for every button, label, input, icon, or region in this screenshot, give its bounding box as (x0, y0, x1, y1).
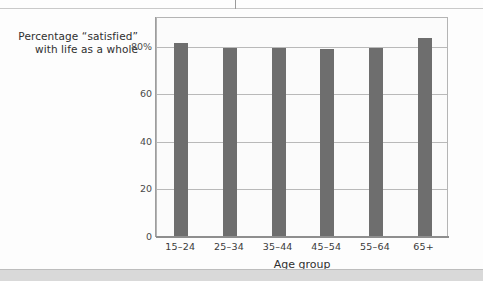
y-tick-label-80: 80% (112, 40, 152, 51)
y-tick-label-40: 40 (112, 135, 152, 146)
x-tick-label-45–54: 45–54 (303, 241, 349, 252)
gridline-80 (157, 47, 447, 48)
x-tick-label-25–34: 25–34 (206, 241, 252, 252)
y-axis-line (155, 17, 156, 237)
bar-35–44[interactable] (272, 48, 286, 236)
y-axis-tick-group: 020406080% (108, 17, 152, 236)
bar-55–64[interactable] (369, 48, 383, 236)
y-tick-label-0: 0 (112, 231, 152, 242)
bar-65+[interactable] (418, 38, 432, 236)
y-tick-label-20: 20 (112, 183, 152, 194)
plot-area (157, 18, 447, 236)
y-tick-label-60: 60 (112, 88, 152, 99)
plot-frame (156, 17, 448, 236)
gridline-40 (157, 142, 447, 143)
bar-25–34[interactable] (223, 48, 237, 236)
x-tick-label-55–64: 55–64 (352, 241, 398, 252)
bar-45–54[interactable] (320, 49, 334, 236)
x-tick-label-15–24: 15–24 (157, 241, 203, 252)
page-top-tick-mark (235, 0, 236, 9)
gridline-20 (157, 189, 447, 190)
x-axis-baseline (156, 236, 449, 238)
page-top-rule (0, 8, 483, 9)
bar-15–24[interactable] (174, 43, 188, 236)
gridline-60 (157, 94, 447, 95)
x-tick-label-35–44: 35–44 (255, 241, 301, 252)
page-bottom-band (0, 270, 483, 281)
x-tick-label-65+: 65+ (401, 241, 447, 252)
